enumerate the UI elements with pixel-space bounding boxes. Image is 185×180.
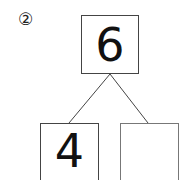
part-box-right-blank[interactable] [120,123,179,180]
whole-number-box: 6 [81,15,139,74]
part-box-left: 4 [40,123,99,180]
